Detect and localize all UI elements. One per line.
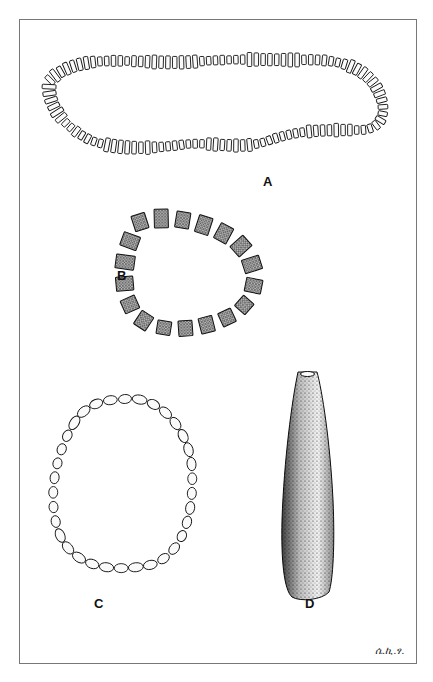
figure-label-c: C: [94, 596, 103, 611]
figure-label-a: A: [263, 174, 272, 189]
figure-a-necklace: [42, 53, 388, 155]
figure-c-bead-loop: [48, 394, 196, 573]
figure-label-b: B: [117, 268, 126, 283]
figure-d-pendant: [282, 372, 334, 600]
artist-signature: ሴ.ኪ.ፃ.: [375, 645, 405, 657]
illustrations: [0, 0, 433, 682]
figure-b-bracelet: [115, 209, 263, 337]
figure-label-d: D: [305, 596, 314, 611]
